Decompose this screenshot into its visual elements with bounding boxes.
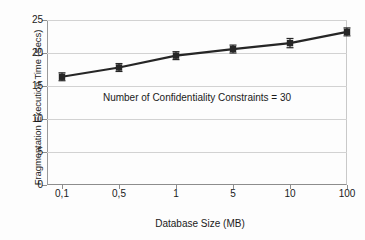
- y-tick-label: 15: [17, 80, 43, 91]
- y-axis-title: Fragmentation Execution Time (Secs): [32, 13, 43, 203]
- y-tick-label: 20: [17, 47, 43, 58]
- chart-container: Fragmentation Execution Time (Secs) 0510…: [0, 0, 365, 240]
- x-tick-label: 1: [156, 188, 196, 199]
- x-tick-label: 100: [327, 188, 365, 199]
- x-axis-title: Database Size (MB): [45, 218, 355, 229]
- gridline: [47, 152, 347, 153]
- x-tick-label: 0,1: [42, 188, 82, 199]
- y-tick-label: 0: [17, 179, 43, 190]
- y-tick-label: 25: [17, 14, 43, 25]
- x-tick-label: 5: [213, 188, 253, 199]
- x-tick-label: 0,5: [99, 188, 139, 199]
- gridline: [47, 20, 347, 21]
- gridline: [47, 119, 347, 120]
- y-tick-label: 5: [17, 146, 43, 157]
- x-tick-label: 10: [270, 188, 310, 199]
- gridline: [47, 53, 347, 54]
- chart-annotation: Number of Confidentiality Constraints = …: [47, 92, 347, 103]
- gridline: [47, 86, 347, 87]
- y-tick-label: 10: [17, 113, 43, 124]
